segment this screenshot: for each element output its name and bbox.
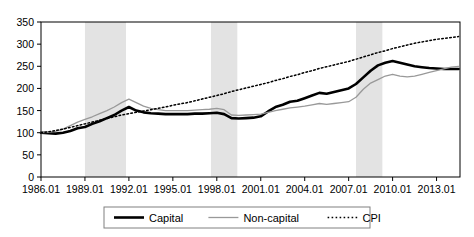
y-tick-label: 100: [16, 127, 34, 139]
chart-figure: 050100150200250300350 1986.011989.011992…: [0, 0, 474, 237]
y-tick-label: 50: [22, 149, 34, 161]
line-chart: 050100150200250300350 1986.011989.011992…: [0, 0, 474, 237]
legend-label-cpi: CPI: [363, 212, 381, 224]
chart-legend: CapitalNon-capitalCPI: [104, 207, 381, 228]
x-tick-label: 1995.01: [154, 183, 192, 195]
x-tick-label: 2010.01: [374, 183, 412, 195]
x-tick-label: 1992.01: [110, 183, 148, 195]
recession-band: [356, 22, 382, 177]
x-tick-label: 1986.01: [22, 183, 60, 195]
y-tick-label: 150: [16, 105, 34, 117]
recession-band: [211, 22, 237, 177]
x-tick-label: 1998.01: [198, 183, 236, 195]
recession-band: [85, 22, 126, 177]
y-tick-label: 200: [16, 82, 34, 94]
x-tick-label: 1989.01: [66, 183, 104, 195]
x-tick-label: 2004.01: [286, 183, 324, 195]
y-axis-ticks: 050100150200250300350: [16, 16, 41, 183]
x-axis-ticks: 1986.011989.011992.011995.011998.012001.…: [22, 177, 456, 195]
y-tick-label: 350: [16, 16, 34, 28]
y-tick-label: 0: [28, 171, 34, 183]
legend-label-capital: Capital: [149, 212, 183, 224]
x-tick-label: 2007.01: [330, 183, 368, 195]
x-tick-label: 2013.01: [418, 183, 456, 195]
x-tick-label: 2001.01: [242, 183, 280, 195]
y-tick-label: 250: [16, 60, 34, 72]
y-tick-label: 300: [16, 38, 34, 50]
legend-label-non-capital: Non-capital: [243, 212, 299, 224]
